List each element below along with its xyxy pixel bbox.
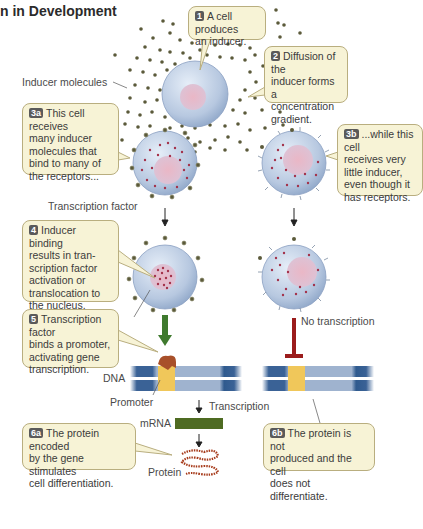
step-badge-6b: 6b — [270, 428, 285, 438]
step-badge-1: 1 — [195, 11, 204, 21]
label-inducer-molecules: Inducer molecules — [22, 76, 107, 88]
translation-arrow — [196, 434, 202, 447]
label-mrna: mRNA — [140, 417, 171, 429]
label-no-transcription: No transcription — [301, 315, 375, 327]
dna-right — [262, 366, 374, 391]
protein-chain — [182, 450, 218, 474]
arrows-down — [162, 208, 297, 226]
callout-step-2: 2Diffusion of the inducer forms a concen… — [264, 46, 348, 103]
label-transcription-factor: Transcription factor — [48, 200, 137, 212]
step-badge-5: 5 — [29, 314, 38, 324]
label-dna: DNA — [103, 372, 125, 384]
producer-cell — [162, 61, 228, 127]
callout-text: This cell receives many inducer molecule… — [29, 107, 101, 182]
cell-3b — [258, 127, 330, 200]
step-badge-4: 4 — [29, 225, 38, 235]
cell-activated — [127, 236, 204, 312]
callout-step-3a: 3aThis cell receives many inducer molecu… — [22, 103, 119, 175]
callout-step-1: 1A cell produces an inducer. — [188, 6, 266, 40]
callout-step-5: 5Transcription factor binds a promoter, … — [22, 309, 119, 368]
callout-step-6b: 6bThe protein is not produced and the ce… — [263, 423, 375, 471]
callout-text: ...while this cell receives very little … — [344, 128, 413, 203]
mrna-strand — [175, 418, 223, 429]
step-badge-6a: 6a — [29, 428, 43, 438]
callout-step-3b: 3b...while this cell receives very littl… — [337, 124, 423, 196]
label-promoter: Promoter — [110, 396, 153, 408]
cell-not-activated — [258, 237, 330, 312]
label-transcription: Transcription — [209, 400, 269, 412]
step-badge-3b: 3b — [344, 129, 359, 139]
step-badge-3a: 3a — [29, 108, 43, 118]
activation-arrow — [158, 315, 172, 346]
callout-step-6a: 6aThe protein encoded by the gene stimul… — [22, 423, 136, 470]
callout-text: Inducer binding results in tran- scripti… — [29, 224, 100, 311]
step-badge-2: 2 — [271, 51, 280, 61]
label-protein: Protein — [148, 466, 181, 478]
transcription-arrow — [196, 400, 202, 413]
dna-left — [130, 356, 242, 391]
callout-step-4: 4Inducer binding results in tran- script… — [22, 220, 119, 302]
callout-text: Transcription factor binds a promoter, a… — [29, 313, 110, 375]
